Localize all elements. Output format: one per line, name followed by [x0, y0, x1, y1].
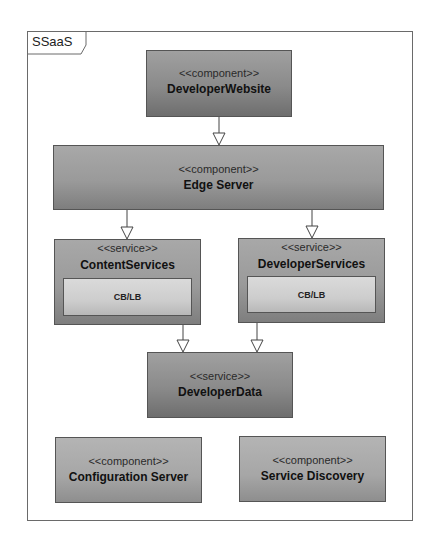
hollow-arrowhead-icon	[251, 340, 263, 352]
edge-edge-server-to-developer-services	[306, 210, 318, 238]
edge-website-to-edge-server	[213, 117, 225, 145]
edge-content-services-to-developer-data	[177, 325, 189, 352]
hollow-arrowhead-icon	[213, 133, 225, 145]
hollow-arrowhead-icon	[306, 226, 318, 238]
hollow-arrowhead-icon	[121, 227, 133, 239]
edge-developer-services-to-developer-data	[251, 323, 263, 352]
dependency-arrows	[0, 0, 431, 549]
hollow-arrowhead-icon	[177, 340, 189, 352]
edge-edge-server-to-content-services	[121, 210, 133, 239]
